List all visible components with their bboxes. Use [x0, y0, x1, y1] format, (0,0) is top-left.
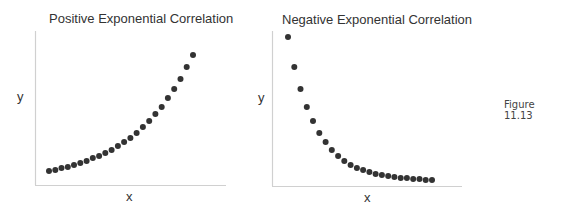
data-point	[410, 176, 416, 182]
data-point	[385, 173, 391, 179]
data-point	[77, 160, 83, 166]
data-point	[96, 153, 102, 159]
data-point	[398, 175, 404, 181]
data-point	[310, 118, 316, 124]
data-point	[335, 153, 341, 159]
data-point	[417, 176, 423, 182]
data-point	[90, 155, 96, 161]
data-point	[404, 175, 410, 181]
data-point	[102, 150, 108, 156]
data-point	[52, 167, 58, 173]
data-point	[84, 158, 90, 164]
data-point	[59, 165, 65, 171]
chart-negative-ylabel: y	[258, 90, 265, 105]
data-point	[71, 162, 77, 168]
data-point	[165, 95, 171, 101]
data-point	[291, 64, 297, 70]
data-point	[354, 165, 360, 171]
data-point	[121, 139, 127, 145]
chart-positive-xlabel: x	[126, 189, 133, 204]
chart-negative-title: Negative Exponential Correlation	[282, 12, 472, 27]
data-point	[134, 130, 140, 136]
data-point	[109, 147, 115, 153]
chart-negative-points	[285, 34, 435, 183]
data-point	[140, 124, 146, 130]
data-point	[379, 172, 385, 178]
data-point	[127, 135, 133, 141]
data-point	[304, 104, 310, 110]
figure-label: Figure 11.13	[504, 99, 561, 121]
data-point	[285, 34, 291, 40]
chart-negative-xlabel: x	[364, 190, 371, 205]
data-point	[316, 130, 322, 136]
data-point	[323, 139, 329, 145]
data-point	[373, 171, 379, 177]
data-point	[178, 76, 184, 82]
data-point	[171, 86, 177, 92]
data-point	[348, 162, 354, 168]
data-point	[184, 64, 190, 70]
charts-canvas	[0, 0, 561, 218]
data-point	[159, 104, 165, 110]
data-point	[115, 143, 121, 149]
data-point	[366, 169, 372, 175]
data-point	[65, 164, 71, 170]
data-point	[360, 167, 366, 173]
chart-positive-axes	[35, 31, 226, 186]
chart-positive-title: Positive Exponential Correlation	[49, 11, 233, 26]
data-point	[341, 158, 347, 164]
chart-negative-axes	[272, 31, 462, 187]
data-point	[329, 147, 335, 153]
data-point	[152, 111, 158, 117]
data-point	[391, 174, 397, 180]
data-point	[298, 86, 304, 92]
data-point	[146, 118, 152, 124]
data-point	[46, 168, 52, 174]
chart-positive-ylabel: y	[17, 89, 24, 104]
chart-positive-points	[46, 52, 196, 174]
data-point	[423, 177, 429, 183]
data-point	[429, 177, 435, 183]
data-point	[190, 52, 196, 58]
